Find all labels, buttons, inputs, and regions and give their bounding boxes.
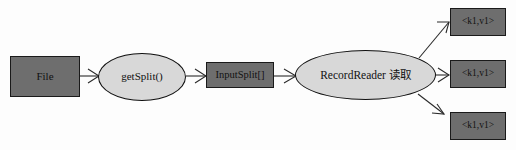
edge-recordreader-to-out1 <box>419 22 449 58</box>
edge-recordreader-to-out2 <box>436 68 449 82</box>
edge-inputsplit-to-recordreader <box>274 69 296 83</box>
node-getsplit[interactable]: getSplit() <box>98 53 186 101</box>
node-output-kv-1-label: <k1,v1> <box>462 17 494 27</box>
node-output-kv-1[interactable]: <k1,v1> <box>450 8 506 36</box>
node-inputsplit[interactable]: InputSplit[] <box>206 62 274 88</box>
node-recordreader[interactable]: RecordReader 读取 <box>295 50 436 100</box>
node-recordreader-label: RecordReader 读取 <box>320 69 411 81</box>
node-output-kv-3-label: <k1,v1> <box>462 121 494 131</box>
node-file[interactable]: File <box>10 56 80 97</box>
node-output-kv-2-label: <k1,v1> <box>462 69 494 79</box>
edge-file-to-getsplit <box>80 69 99 83</box>
node-output-kv-2[interactable]: <k1,v1> <box>450 60 506 88</box>
node-output-kv-3[interactable]: <k1,v1> <box>450 112 506 140</box>
node-file-label: File <box>36 71 53 83</box>
node-getsplit-label: getSplit() <box>121 71 163 83</box>
edge-recordreader-to-out3 <box>418 94 444 114</box>
diagram-canvas: File getSplit() InputSplit[] RecordReade… <box>0 0 516 150</box>
node-inputsplit-label: InputSplit[] <box>216 69 265 80</box>
edge-getsplit-to-inputsplit <box>186 69 206 83</box>
